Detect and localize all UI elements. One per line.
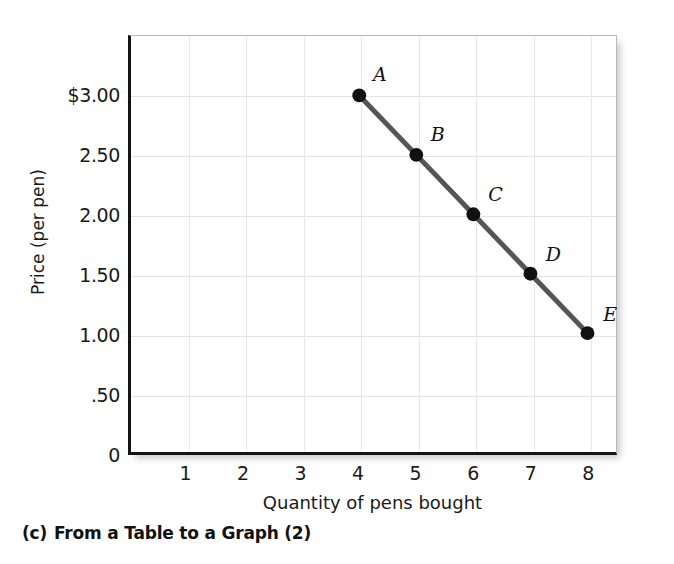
data-point-a[interactable] — [352, 88, 366, 102]
y-tick-label: 1.00 — [0, 324, 120, 346]
x-tick-label: 6 — [453, 462, 493, 484]
figure-container: ABCDE 0.501.001.502.002.50$3.00 12345678… — [0, 0, 674, 564]
y-tick-label: .50 — [0, 384, 120, 406]
caption-text: From a Table to a Graph (2) — [54, 523, 311, 543]
y-axis-title: Price (per pen) — [28, 147, 48, 317]
x-tick-label: 4 — [338, 462, 378, 484]
x-tick-label: 8 — [568, 462, 608, 484]
demand-line-series — [131, 36, 616, 452]
data-point-e[interactable] — [581, 326, 595, 340]
x-tick-label: 7 — [511, 462, 551, 484]
point-label-c: C — [488, 183, 503, 205]
caption-index: (c) — [22, 523, 47, 543]
y-tick-label: $3.00 — [0, 84, 120, 106]
point-label-b: B — [431, 123, 445, 145]
y-axis-tick-labels: 0.501.001.502.002.50$3.00 — [0, 35, 120, 455]
x-axis-tick-labels: 12345678 — [128, 462, 617, 490]
point-label-d: D — [546, 243, 561, 265]
x-tick-label: 5 — [396, 462, 436, 484]
x-axis-title: Quantity of pens bought — [128, 492, 617, 513]
data-point-b[interactable] — [409, 148, 423, 162]
figure-caption: (c)From a Table to a Graph (2) — [22, 523, 311, 543]
x-tick-label: 1 — [166, 462, 206, 484]
x-tick-label: 2 — [223, 462, 263, 484]
y-tick-label: 1.50 — [0, 264, 120, 286]
plot-area: ABCDE — [128, 35, 617, 455]
y-tick-label: 0 — [0, 444, 120, 466]
data-point-c[interactable] — [466, 207, 480, 221]
point-label-e: E — [603, 303, 617, 325]
y-tick-label: 2.00 — [0, 204, 120, 226]
data-point-d[interactable] — [523, 267, 537, 281]
point-label-a: A — [373, 63, 387, 85]
x-tick-label: 3 — [281, 462, 321, 484]
y-tick-label: 2.50 — [0, 144, 120, 166]
